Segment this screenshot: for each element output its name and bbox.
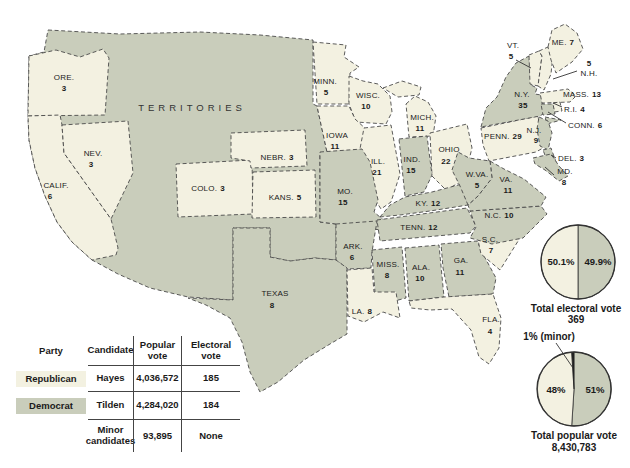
state-connecticut <box>541 104 555 115</box>
label-michigan-votes: 11 <box>416 124 425 133</box>
electoral-vote-minor: None <box>182 420 240 452</box>
label-arkansas: ARK. <box>343 242 362 251</box>
label-mississippi: MISS. <box>377 260 400 269</box>
label-new-jersey: N.J. <box>526 126 541 135</box>
label-wisconsin: WISC. <box>356 91 380 100</box>
label-virginia: VA. <box>500 175 513 184</box>
label-missouri-votes: 15 <box>338 198 348 207</box>
electoral-pie-title: Total electoral vote <box>531 303 622 314</box>
electoral-hayes-percent: 50.1% <box>548 256 575 267</box>
label-minnesota-votes: 5 <box>324 88 329 97</box>
label-iowa-votes: 11 <box>331 142 340 151</box>
label-south-carolina-votes: 7 <box>489 246 494 255</box>
label-california: CALIF. <box>43 181 68 190</box>
label-texas-votes: 8 <box>270 301 275 310</box>
label-maryland: MD. <box>557 167 572 176</box>
popular-hayes-percent: 48% <box>546 384 566 395</box>
popular-vote-pie: 1% (minor) 48% 51% Total popular vote 8,… <box>523 331 617 453</box>
party-cell-republican: Republican <box>14 366 88 392</box>
candidate-tilden: Tilden <box>88 392 133 420</box>
label-delaware: DEL.3 <box>558 154 585 163</box>
header-popular-vote: Popular vote <box>133 336 182 366</box>
minor-slice-label: 1% (minor) <box>523 331 575 342</box>
label-wisconsin-votes: 10 <box>361 102 371 111</box>
party-cell-minor <box>14 420 88 452</box>
results-table: Party Candidate Popular vote Electoral v… <box>14 336 240 452</box>
electoral-vote-tilden: 184 <box>182 392 240 420</box>
results-header-row: Party Candidate Popular vote Electoral v… <box>14 336 240 366</box>
results-row-minor: Minor candidates 93,895 None <box>14 420 240 452</box>
label-minnesota: MINN. <box>313 77 337 86</box>
electoral-vote-hayes: 185 <box>182 366 240 392</box>
label-michigan: MICH. <box>410 113 434 122</box>
label-nevada: NEV. <box>84 149 103 158</box>
results-row-democrat: Democrat Tilden 4,284,020 184 <box>14 392 240 420</box>
label-louisiana: LA.8 <box>352 307 373 316</box>
label-nevada-votes: 3 <box>89 160 94 169</box>
state-oregon <box>28 49 109 116</box>
header-candidate: Candidate <box>88 336 133 366</box>
label-mississippi-votes: 8 <box>385 271 390 280</box>
label-ohio-votes: 22 <box>441 157 451 166</box>
state-maine <box>548 24 583 73</box>
label-georgia-votes: 11 <box>456 268 465 277</box>
label-maryland-votes: 8 <box>562 178 567 187</box>
label-illinois-votes: 21 <box>372 168 382 177</box>
label-florida: FLA. <box>482 315 500 324</box>
popular-pie-total: 8,430,783 <box>552 442 597 453</box>
electoral-tilden-percent: 49.9% <box>585 256 612 267</box>
popular-pie-title: Total popular vote <box>531 430 617 441</box>
label-illinois: ILL. <box>371 157 385 166</box>
state-wisconsin <box>349 76 392 124</box>
label-new-york-votes: 35 <box>518 101 528 110</box>
candidate-hayes: Hayes <box>88 366 133 392</box>
label-texas: TEXAS <box>261 289 288 298</box>
label-georgia: GA. <box>454 256 468 265</box>
label-alabama-votes: 10 <box>415 274 425 283</box>
label-south-carolina: S.C. <box>482 235 498 244</box>
label-oregon-votes: 3 <box>62 84 67 93</box>
label-new-hampshire: N.H. <box>581 69 598 78</box>
label-indiana: IND. <box>404 155 421 164</box>
label-kansas: KANS.5 <box>269 193 302 202</box>
label-pennsylvania: PENN.29 <box>484 132 522 141</box>
election-map-page: TERRITORIES ORE. 3 CALIF. 6 NEV. 3 MINN.… <box>0 0 630 468</box>
label-vermont: VT. <box>507 41 519 50</box>
header-electoral-vote: Electoral vote <box>182 336 240 366</box>
label-indiana-votes: 15 <box>406 166 416 175</box>
label-tennessee: TENN.12 <box>400 223 438 232</box>
label-virginia-votes: 11 <box>504 186 513 195</box>
label-ohio: OHIO <box>438 145 459 154</box>
results-row-republican: Republican Hayes 4,036,572 185 <box>14 366 240 392</box>
candidate-minor: Minor candidates <box>88 420 133 452</box>
label-florida-votes: 4 <box>488 327 493 336</box>
label-iowa: IOWA <box>326 131 348 140</box>
label-missouri: MO. <box>337 187 353 196</box>
state-alabama <box>405 245 444 301</box>
label-massachusetts: MASS.13 <box>563 90 602 99</box>
label-oregon: ORE. <box>54 73 74 82</box>
popular-tilden-percent: 51% <box>585 384 605 395</box>
electoral-pie-total: 369 <box>568 314 585 325</box>
label-new-jersey-votes: 9 <box>534 136 539 145</box>
popular-vote-hayes: 4,036,572 <box>133 366 182 392</box>
electoral-vote-pie: 50.1% 49.9% Total electoral vote 369 <box>531 225 622 325</box>
header-party: Party <box>14 336 88 366</box>
label-new-hampshire-votes: 5 <box>587 59 592 68</box>
label-alabama: ALA. <box>412 263 430 272</box>
democrat-color-swatch: Democrat <box>16 398 86 415</box>
label-west-virginia: W.VA. <box>466 170 489 179</box>
label-north-carolina: N.C.10 <box>484 211 513 220</box>
label-new-york: N.Y. <box>514 90 529 99</box>
label-vermont-votes: 5 <box>509 52 514 61</box>
label-arkansas-votes: 6 <box>350 253 355 262</box>
label-colorado: COLO.3 <box>191 184 225 193</box>
label-rhode-island: R.I.4 <box>564 105 585 114</box>
republican-color-swatch: Republican <box>16 371 86 388</box>
territories-label: TERRITORIES <box>138 102 246 113</box>
popular-vote-minor: 93,895 <box>133 420 182 452</box>
label-california-votes: 6 <box>48 192 53 201</box>
party-cell-democrat: Democrat <box>14 392 88 420</box>
label-connecticut: CONN.6 <box>568 121 603 130</box>
label-maine: ME.7 <box>552 38 575 47</box>
